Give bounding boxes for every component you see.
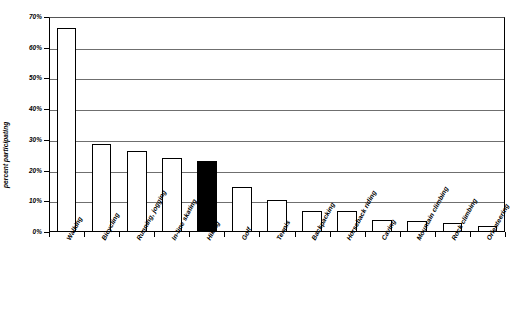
x-tick-mark (505, 232, 506, 237)
bar-slot (337, 17, 357, 232)
bar-slot (232, 17, 252, 232)
x-tick-mark (470, 232, 471, 237)
y-tick-label: 40% (0, 105, 42, 112)
bar-slot (372, 17, 392, 232)
bar-slot (407, 17, 427, 232)
bar-slot (267, 17, 287, 232)
bar-slot (92, 17, 112, 232)
bar-slot (443, 17, 463, 232)
x-tick-mark (330, 232, 331, 237)
bar-slot (302, 17, 322, 232)
x-tick-mark (84, 232, 85, 237)
bar-slot (127, 17, 147, 232)
bar-golf (232, 187, 252, 232)
y-tick-label: 10% (0, 197, 42, 204)
x-tick-mark (259, 232, 260, 237)
bar-chart: percent participating 0%10%20%30%40%50%6… (0, 0, 519, 324)
bar-slot (57, 17, 77, 232)
x-tick-mark (224, 232, 225, 237)
bar-walking (57, 28, 77, 232)
y-tick-label: 70% (0, 13, 42, 20)
x-tick-mark (295, 232, 296, 237)
x-tick-mark (435, 232, 436, 237)
y-tick-label: 20% (0, 167, 42, 174)
bar-slot (197, 17, 217, 232)
x-tick-mark (400, 232, 401, 237)
y-tick-label: 60% (0, 44, 42, 51)
y-tick-label: 30% (0, 136, 42, 143)
y-axis-title: percent participating (2, 0, 9, 68)
y-tick-label: 0% (0, 228, 42, 235)
bar-bicycling (92, 144, 112, 232)
x-tick-mark (119, 232, 120, 237)
x-tick-mark (365, 232, 366, 237)
y-tick-label: 50% (0, 74, 42, 81)
x-tick-mark (189, 232, 190, 237)
bar-slot (162, 17, 182, 232)
x-tick-mark (49, 232, 50, 237)
bar-slot (478, 17, 498, 232)
x-tick-mark (154, 232, 155, 237)
y-axis-title-text: percent participating (2, 122, 9, 188)
